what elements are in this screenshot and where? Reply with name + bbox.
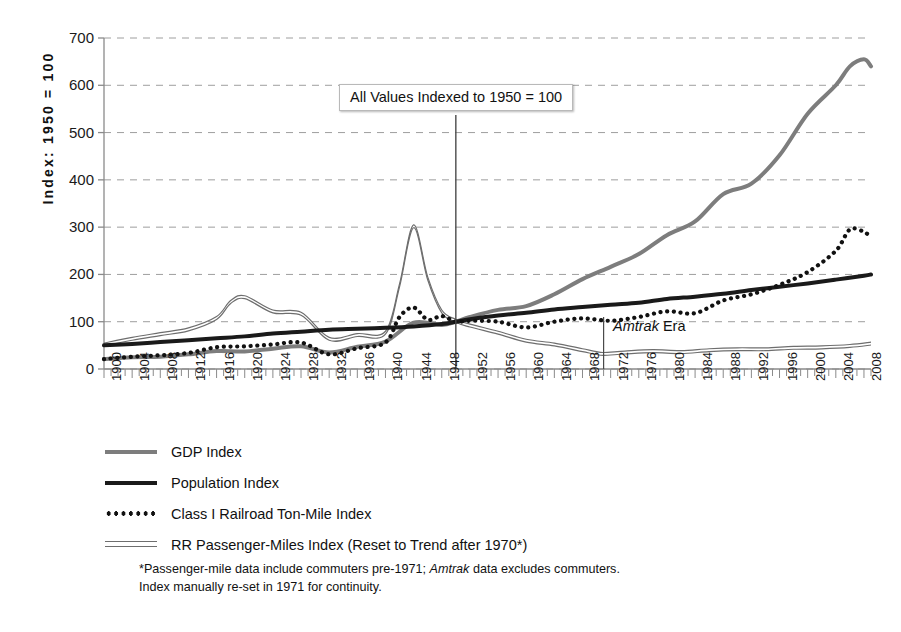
legend-swatch-gdp-icon <box>105 445 157 459</box>
x-tick-1936: 1936 <box>362 352 377 381</box>
x-tick-2004: 2004 <box>841 352 856 381</box>
legend-item-population[interactable]: Population Index <box>105 467 805 498</box>
x-tick-1900: 1900 <box>109 352 124 381</box>
x-tick-1980: 1980 <box>672 352 687 381</box>
footnote-line1-pre: *Passenger-mile data include commuters p… <box>139 562 430 576</box>
y-tick-100: 100 <box>48 313 94 330</box>
x-tick-1932: 1932 <box>334 352 349 381</box>
y-tick-500: 500 <box>48 124 94 141</box>
x-tick-1964: 1964 <box>559 352 574 381</box>
x-tick-1952: 1952 <box>475 352 490 381</box>
chart-footnote: *Passenger-mile data include commuters p… <box>139 560 639 597</box>
legend-item-ton-mile[interactable]: Class I Railroad Ton-Mile Index <box>105 498 805 529</box>
x-tick-1920: 1920 <box>250 352 265 381</box>
legend-label-gdp: GDP Index <box>171 444 242 460</box>
legend-label-ton-mile: Class I Railroad Ton-Mile Index <box>171 506 371 522</box>
series-line-1 <box>104 274 871 345</box>
chart-legend: GDP Index Population Index Class I Railr… <box>105 436 805 560</box>
x-tick-1904: 1904 <box>137 352 152 381</box>
x-tick-1924: 1924 <box>278 352 293 381</box>
y-tick-300: 300 <box>48 218 94 235</box>
x-tick-1940: 1940 <box>390 352 405 381</box>
x-tick-2008: 2008 <box>869 352 884 381</box>
x-tick-1968: 1968 <box>587 352 602 381</box>
amtrak-era-rest: Era <box>659 318 686 334</box>
x-tick-1956: 1956 <box>503 352 518 381</box>
x-tick-1996: 1996 <box>785 352 800 381</box>
x-tick-1972: 1972 <box>616 352 631 381</box>
x-tick-1960: 1960 <box>531 352 546 381</box>
x-tick-1976: 1976 <box>644 352 659 381</box>
legend-label-population: Population Index <box>171 475 279 491</box>
legend-label-passenger-miles: RR Passenger-Miles Index (Reset to Trend… <box>171 537 527 553</box>
x-tick-2000: 2000 <box>813 352 828 381</box>
x-tick-1944: 1944 <box>419 352 434 381</box>
legend-item-passenger-miles[interactable]: RR Passenger-Miles Index (Reset to Trend… <box>105 529 805 560</box>
y-tick-200: 200 <box>48 265 94 282</box>
index-base-callout: All Values Indexed to 1950 = 100 <box>339 84 573 111</box>
legend-swatch-population-icon <box>105 476 157 490</box>
footnote-line1-post: data excludes <box>469 562 550 576</box>
amtrak-era-italic: Amtrak <box>613 318 659 334</box>
y-tick-0: 0 <box>48 360 94 377</box>
footnote-amtrak-italic: Amtrak <box>430 562 470 576</box>
amtrak-era-label: Amtrak Era <box>613 318 686 334</box>
x-tick-1988: 1988 <box>728 352 743 381</box>
x-tick-1984: 1984 <box>700 352 715 381</box>
x-tick-1912: 1912 <box>193 352 208 381</box>
y-tick-700: 700 <box>48 29 94 46</box>
x-tick-1916: 1916 <box>222 352 237 381</box>
y-tick-400: 400 <box>48 171 94 188</box>
legend-item-gdp[interactable]: GDP Index <box>105 436 805 467</box>
x-tick-1908: 1908 <box>165 352 180 381</box>
x-tick-1928: 1928 <box>306 352 321 381</box>
legend-swatch-ton-mile-icon <box>105 507 157 521</box>
y-tick-600: 600 <box>48 76 94 93</box>
chart-figure: Index: 1950 = 100 0100200300400500600700… <box>0 0 901 632</box>
x-tick-1992: 1992 <box>756 352 771 381</box>
x-tick-1948: 1948 <box>447 352 462 381</box>
legend-swatch-passenger-miles-icon <box>105 538 157 552</box>
